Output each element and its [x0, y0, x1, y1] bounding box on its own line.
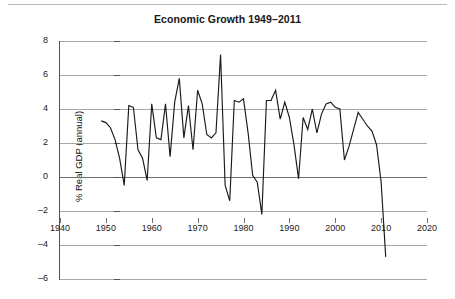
y-tick-label-4: 4 [14, 103, 48, 113]
chart-title: Economic Growth 1949–2011 [0, 13, 455, 25]
y-tick-label--6: –6 [14, 273, 48, 283]
x-tick-label-1990: 1990 [267, 223, 311, 233]
y-tick-label-6: 6 [14, 69, 48, 79]
y-tick-mark-0 [114, 177, 120, 178]
y-tick-mark--4 [114, 245, 120, 246]
header-divider [8, 4, 447, 5]
x-tick-label-1960: 1960 [130, 223, 174, 233]
y-tick-mark-4 [114, 109, 120, 110]
x-tick-label-2000: 2000 [313, 223, 357, 233]
x-tick-label-1950: 1950 [84, 223, 128, 233]
x-tick-label-2020: 2020 [405, 223, 449, 233]
x-tick-label-2010: 2010 [359, 223, 403, 233]
y-tick-mark-2 [114, 143, 120, 144]
x-tick-label-1970: 1970 [176, 223, 220, 233]
y-tick-label-0: 0 [14, 171, 48, 181]
y-tick-mark--6 [114, 279, 120, 280]
y-tick-label--4: –4 [14, 239, 48, 249]
y-tick-mark-8 [114, 41, 120, 42]
y-tick-label-2: 2 [14, 137, 48, 147]
y-tick-mark-6 [114, 75, 120, 76]
chart-figure: Economic Growth 1949–2011 % Real GDP (an… [0, 0, 455, 299]
x-tick-label-1940: 1940 [38, 223, 82, 233]
x-tick-label-1980: 1980 [222, 223, 266, 233]
y-tick-label-8: 8 [14, 35, 48, 45]
plot-area: % Real GDP (annual) –6–4–202468 19401950… [60, 41, 427, 279]
y-tick-mark--2 [114, 211, 120, 212]
y-tick-label--2: –2 [14, 205, 48, 215]
y-axis-label: % Real GDP (annual) [73, 67, 84, 247]
